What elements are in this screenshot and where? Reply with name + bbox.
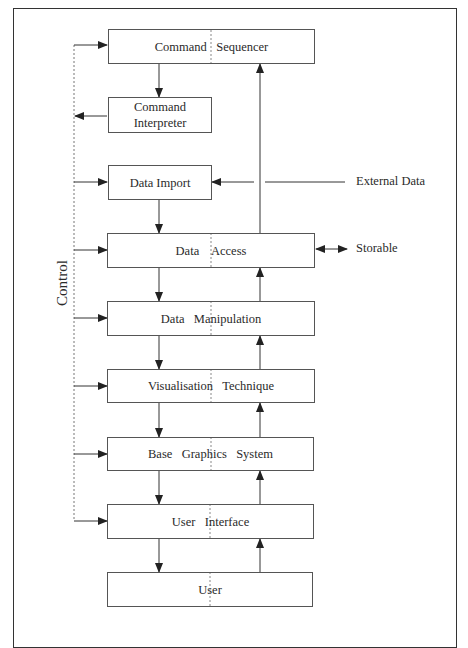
- box-label: Visualisation Technique: [148, 378, 274, 394]
- box-label: Base Graphics System: [148, 446, 273, 462]
- storable-label: Storable: [356, 241, 398, 256]
- box-visualisation-technique: Visualisation Technique: [107, 369, 315, 403]
- box-data-import: Data Import: [108, 165, 212, 200]
- box-label: Data Manipulation: [161, 311, 261, 327]
- box-label: User Interface: [172, 514, 249, 530]
- box-command-sequencer: Command Sequencer: [108, 29, 315, 64]
- external-data-label: External Data: [356, 174, 425, 189]
- box-label: Data Access: [176, 243, 247, 259]
- box-label: Command Sequencer: [155, 39, 269, 55]
- box-command-interpreter: Command Interpreter: [108, 97, 212, 133]
- box-label: Data Import: [130, 175, 191, 191]
- box-data-access: Data Access: [107, 233, 315, 268]
- box-label: User: [198, 582, 222, 598]
- box-label: Command Interpreter: [134, 99, 187, 131]
- box-user: User: [107, 572, 313, 607]
- box-base-graphics-system: Base Graphics System: [107, 437, 314, 471]
- control-label: Control: [54, 260, 71, 306]
- box-data-manipulation: Data Manipulation: [107, 301, 315, 336]
- box-user-interface: User Interface: [107, 504, 314, 539]
